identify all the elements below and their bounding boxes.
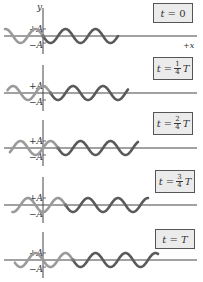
time-prefix: t =	[159, 176, 175, 187]
minus-amp-label: −A	[29, 264, 44, 274]
time-label-t1: t =14T	[153, 57, 193, 80]
minus-amp-label: −A	[29, 40, 44, 50]
time-suffix: T	[185, 176, 192, 187]
time-label-t3: t =34T	[155, 170, 195, 193]
wave-front-marker	[49, 92, 52, 95]
time-label-t4: t = T	[155, 229, 195, 249]
time-suffix: 0	[179, 8, 185, 19]
time-label-t2: t =24T	[153, 112, 193, 135]
wave-front-marker	[57, 147, 60, 150]
x-axis-label: +x	[183, 41, 195, 50]
wave-front-marker	[64, 204, 67, 207]
wave-front-marker	[72, 259, 75, 262]
time-suffix: T	[183, 63, 190, 74]
y-axis-label: y	[36, 2, 43, 12]
time-prefix: t =	[162, 234, 178, 245]
time-prefix: t =	[157, 63, 173, 74]
time-fraction: 14	[174, 61, 180, 76]
time-prefix: t =	[157, 118, 173, 129]
time-suffix: T	[181, 234, 188, 245]
wave-front-marker	[42, 35, 45, 38]
plus-amp-label: +A	[29, 136, 44, 146]
time-prefix: t =	[160, 8, 176, 19]
time-label-t0: t = 0	[153, 3, 193, 23]
time-suffix: T	[183, 118, 190, 129]
time-fraction: 34	[176, 174, 182, 189]
time-fraction: 24	[174, 116, 180, 131]
